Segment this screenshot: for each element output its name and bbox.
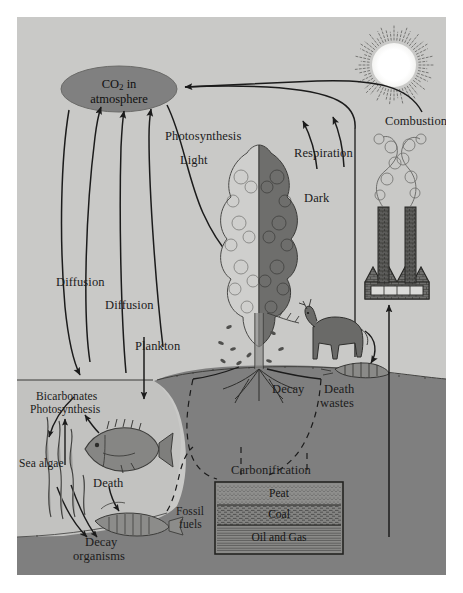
label-decay: Decay [272, 382, 304, 396]
label-death-wastes-line2: wastes [320, 396, 354, 410]
label-bicarbonates: Bicarbonates [36, 390, 97, 403]
carbon-cycle-figure: CO2 in atmosphere Photosynthesis Light R… [17, 17, 446, 575]
label-carbonification: Carbonification [231, 463, 311, 477]
label-diffusion-1: Diffusion [56, 275, 105, 289]
label-decay-organisms-line2: organisms [73, 549, 125, 563]
co2-text-line2: atmosphere [90, 92, 148, 106]
co2-text-in: in [124, 77, 137, 91]
co2-atmosphere-label: CO2 in atmosphere [64, 77, 174, 107]
label-combustion: Combustion [385, 114, 446, 128]
label-fossil-fuels-line1: Fossil [176, 505, 204, 518]
label-photosynthesis: Photosynthesis [165, 129, 241, 143]
label-diffusion-2: Diffusion [105, 298, 154, 312]
label-decay-organisms-line1: Decay [85, 535, 117, 549]
label-photosynthesis-sea: Photosynthesis [30, 403, 100, 416]
label-fossil-fuels-line2: fuels [179, 518, 202, 531]
label-dark: Dark [304, 191, 329, 205]
label-death-wastes-line1: Death [324, 382, 354, 396]
label-light: Light [180, 153, 208, 167]
co2-text-line1: CO [102, 77, 119, 91]
label-layer-peat: Peat [215, 487, 343, 499]
label-plankton: Plankton [135, 339, 180, 353]
label-death: Death [93, 476, 123, 490]
label-layer-oil-and-gas: Oil and Gas [215, 531, 343, 543]
label-respiration: Respiration [294, 146, 353, 160]
label-layer-coal: Coal [215, 508, 343, 520]
label-sea-algae: Sea algae [19, 457, 64, 470]
